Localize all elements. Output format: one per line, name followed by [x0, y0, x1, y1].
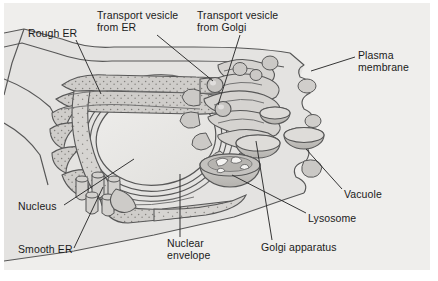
label-rough-er: Rough ER: [28, 28, 77, 40]
transport-vesicle-from-er: [207, 78, 223, 93]
label-nucleus: Nucleus: [18, 201, 57, 213]
label-vacuole: Vacuole: [344, 189, 382, 201]
label-transport-vesicle-from-golgi-line1: Transport vesicle: [197, 10, 278, 22]
label-plasma-membrane-line1: Plasma: [358, 50, 394, 62]
label-smooth-er: Smooth ER: [18, 244, 73, 256]
cell-illustration: [4, 3, 430, 270]
cell-diagram-figure: Rough ER Transport vesicle from ER Trans…: [0, 0, 438, 281]
label-nuclear-envelope-line2: envelope: [167, 250, 210, 262]
label-transport-vesicle-from-er-line2: from ER: [97, 22, 136, 34]
label-transport-vesicle-from-er-line1: Transport vesicle: [97, 10, 178, 22]
diagram-panel: Rough ER Transport vesicle from ER Trans…: [4, 3, 430, 270]
label-lysosome: Lysosome: [308, 213, 356, 225]
label-golgi-apparatus: Golgi apparatus: [261, 242, 337, 254]
label-nuclear-envelope-line1: Nuclear: [167, 238, 204, 250]
label-plasma-membrane-line2: membrane: [358, 62, 409, 74]
label-transport-vesicle-from-golgi-line2: from Golgi: [197, 22, 246, 34]
transport-vesicle-from-golgi: [215, 102, 231, 117]
